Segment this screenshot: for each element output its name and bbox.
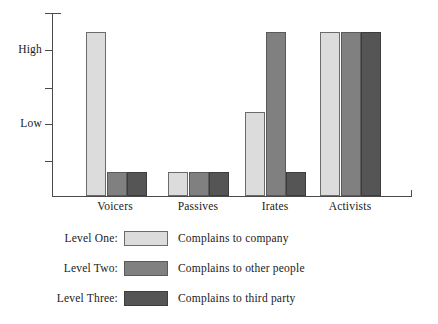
bar-irates-level-1 <box>245 112 265 196</box>
bar-series-container <box>0 0 438 220</box>
legend-key-label: Level One: <box>0 228 118 248</box>
bar-irates-level-3 <box>286 172 306 196</box>
bar-passives-level-2 <box>189 172 209 196</box>
bar-voicers-level-3 <box>127 172 147 196</box>
plot-area: HighLow VoicersPassivesIratesActivists <box>0 0 438 220</box>
bar-activists-level-2 <box>341 32 361 196</box>
bar-voicers-level-1 <box>86 32 106 196</box>
bar-irates-level-2 <box>266 32 286 196</box>
legend-row: Level Two:Complains to other people <box>0 258 438 282</box>
legend-swatch-level-2 <box>124 261 168 276</box>
legend-description: Complains to company <box>178 228 289 248</box>
bar-voicers-level-2 <box>107 172 127 196</box>
bar-passives-level-3 <box>209 172 229 196</box>
bar-activists-level-3 <box>361 32 381 196</box>
legend-key-label: Level Three: <box>0 288 118 308</box>
chart-figure: HighLow VoicersPassivesIratesActivists L… <box>0 0 438 324</box>
x-axis-label-activists: Activists <box>300 200 400 213</box>
chart-legend: Level One:Complains to companyLevel Two:… <box>0 228 438 324</box>
legend-swatch-level-1 <box>124 231 168 246</box>
legend-description: Complains to other people <box>178 258 305 278</box>
legend-row: Level One:Complains to company <box>0 228 438 252</box>
bar-activists-level-1 <box>320 32 340 196</box>
legend-description: Complains to third party <box>178 288 296 308</box>
legend-row: Level Three:Complains to third party <box>0 288 438 312</box>
legend-swatch-level-3 <box>124 291 168 306</box>
legend-key-label: Level Two: <box>0 258 118 278</box>
bar-passives-level-1 <box>168 172 188 196</box>
